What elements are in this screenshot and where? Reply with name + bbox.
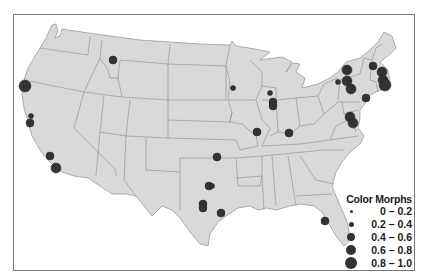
data-point xyxy=(199,204,207,212)
legend-label: 0.8 – 1.0 xyxy=(371,257,412,269)
legend-label: 0.4 – 0.6 xyxy=(371,231,412,243)
legend-label: 0.6 – 0.8 xyxy=(371,244,412,256)
dot-size-1-icon xyxy=(350,210,353,213)
data-point xyxy=(29,114,34,119)
data-point xyxy=(369,62,377,70)
dot-size-3-icon xyxy=(347,233,355,241)
data-point xyxy=(346,84,356,94)
data-point xyxy=(285,129,293,137)
legend: Color Morphs 0 – 0.2 0.2 – 0.4 0.4 – 0.6… xyxy=(342,193,412,270)
data-point xyxy=(231,86,236,91)
data-point xyxy=(321,217,329,225)
data-point xyxy=(217,209,225,217)
legend-item: 0 – 0.2 xyxy=(342,205,412,218)
dot-size-2-icon xyxy=(349,222,354,227)
data-point xyxy=(379,79,391,91)
data-point xyxy=(348,118,358,128)
legend-title: Color Morphs xyxy=(342,193,412,205)
data-point xyxy=(342,65,352,75)
dot-size-4-icon xyxy=(346,245,356,255)
legend-item: 0.4 – 0.6 xyxy=(342,231,412,244)
data-point xyxy=(213,153,221,161)
legend-label: 0.2 – 0.4 xyxy=(371,218,412,230)
data-point xyxy=(269,102,277,110)
data-point xyxy=(268,91,273,96)
data-point xyxy=(362,94,370,102)
legend-item: 0.2 – 0.4 xyxy=(342,218,412,231)
us-land xyxy=(22,24,396,246)
data-point xyxy=(253,128,261,136)
data-point xyxy=(51,163,61,173)
dot-size-5-icon xyxy=(345,257,357,269)
data-point xyxy=(210,184,215,189)
data-point xyxy=(46,152,54,160)
legend-label: 0 – 0.2 xyxy=(380,205,412,217)
data-point xyxy=(19,80,31,92)
legend-item: 0.8 – 1.0 xyxy=(342,257,412,270)
data-point xyxy=(26,119,34,127)
data-point xyxy=(109,56,117,64)
data-point xyxy=(336,80,341,85)
legend-item: 0.6 – 0.8 xyxy=(342,244,412,257)
